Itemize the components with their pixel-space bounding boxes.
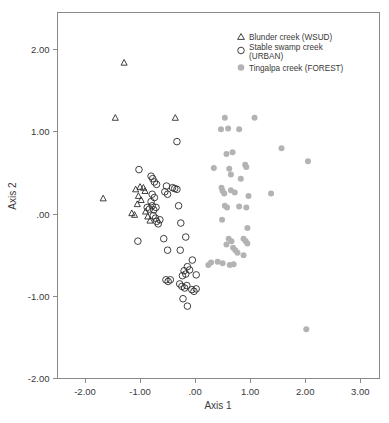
data-point-circle-open (177, 247, 184, 254)
data-point-circle-open (189, 286, 196, 293)
data-point-circle-open (184, 303, 191, 310)
data-point-circle-filled (243, 164, 249, 170)
legend-label-tingalpa: Tingalpa creek (FOREST) (249, 64, 344, 73)
x-tick-label: .00 (188, 386, 201, 397)
data-point-circle-filled (228, 172, 234, 178)
y-axis-tick-labels: 2.001.00.00-1.00-2.00 (28, 44, 50, 384)
y-axis-ticks (53, 50, 58, 379)
data-point-circle-filled (279, 145, 285, 151)
data-point-circle-open (135, 238, 142, 245)
y-tick-label: 1.00 (31, 126, 50, 137)
y-axis-title: Axis 2 (7, 182, 18, 210)
data-point-circle-filled (224, 204, 230, 210)
data-point-circle-filled (241, 252, 247, 258)
data-point-circle-open (167, 277, 174, 284)
data-point-circle-open (175, 202, 182, 209)
y-tick-label: -1.00 (28, 291, 50, 302)
legend-marker-circle-filled-icon (238, 64, 245, 71)
data-point-circle-open (174, 186, 181, 193)
x-tick-label: 2.00 (296, 386, 315, 397)
data-point-circle-open (160, 235, 167, 242)
y-tick-label: -2.00 (28, 373, 50, 384)
data-point-circle-filled (219, 217, 225, 223)
data-point-circle-filled (238, 176, 244, 182)
data-point-circle-filled (223, 151, 229, 157)
legend-marker-circle-open-icon (238, 47, 245, 54)
series-tingalpa-creek-forest (205, 115, 311, 332)
series-blunder-creek-wsud (100, 59, 178, 223)
legend-marker-triangle-icon (238, 34, 245, 40)
data-point-circle-filled (225, 125, 231, 131)
data-point-circle-filled (243, 204, 249, 210)
data-point-circle-filled (228, 238, 234, 244)
y-tick-label: 2.00 (31, 44, 50, 55)
data-point-circle-filled (231, 261, 237, 267)
data-point-circle-filled (223, 241, 229, 247)
data-point-circle-filled (305, 158, 311, 164)
series-stable-swamp-creek-urban (135, 138, 200, 309)
x-tick-label: 1.00 (241, 386, 260, 397)
data-point-circle-filled (236, 126, 242, 132)
data-point-circle-filled (205, 262, 211, 268)
data-point-circle-filled (230, 149, 236, 155)
data-point-circle-filled (244, 241, 250, 247)
x-tick-label: -2.00 (74, 386, 96, 397)
data-point-circle-filled (244, 225, 250, 231)
x-tick-label: -1.00 (129, 386, 151, 397)
data-point-circle-filled (221, 190, 227, 196)
data-point-circle-filled (226, 166, 232, 172)
x-axis-title: Axis 1 (204, 400, 232, 411)
data-point-circle-open (165, 278, 172, 285)
data-point-circle-open (164, 247, 171, 254)
data-point-circle-open (180, 295, 187, 302)
data-point-circle-filled (234, 250, 240, 256)
scatter-plot-figure: -2.00-1.00.001.002.003.00 2.001.00.00-1.… (0, 0, 389, 423)
y-tick-label: .00 (36, 209, 49, 220)
data-point-triangle (134, 201, 140, 207)
data-point-triangle (138, 197, 144, 203)
data-point-triangle (112, 115, 118, 121)
data-point-circle-filled (245, 193, 251, 199)
data-point-circle-filled (303, 326, 309, 332)
data-point-triangle (121, 59, 127, 65)
plot-canvas: -2.00-1.00.001.002.003.00 2.001.00.00-1.… (0, 0, 389, 423)
legend: Blunder creek (WSUD) Stable swamp creek … (238, 33, 344, 73)
data-point-circle-open (193, 272, 200, 279)
legend-label-blunder: Blunder creek (WSUD) (249, 33, 333, 42)
data-point-circle-open (177, 220, 184, 227)
data-point-circle-filled (218, 126, 224, 132)
data-point-circle-filled (268, 190, 274, 196)
data-point-circle-open (182, 234, 189, 241)
data-point-circle-filled (211, 165, 217, 171)
x-tick-label: 3.00 (351, 386, 370, 397)
data-point-circle-open (189, 257, 196, 264)
data-point-circle-open (174, 138, 181, 145)
data-point-circle-filled (252, 115, 258, 121)
x-axis-ticks (85, 379, 360, 384)
data-point-circle-filled (220, 260, 226, 266)
data-point-triangle (172, 115, 178, 121)
legend-label-stable-line1: Stable swamp creek (249, 43, 324, 52)
data-point-circle-open (136, 166, 143, 173)
data-point-circle-filled (232, 190, 238, 196)
data-point-circle-filled (236, 204, 242, 210)
legend-label-stable-line2: (URBAN) (249, 52, 283, 61)
x-axis-tick-labels: -2.00-1.00.001.002.003.00 (74, 386, 369, 397)
data-point-triangle (100, 195, 106, 201)
data-point-circle-filled (222, 115, 228, 121)
data-point-circle-open (148, 198, 155, 205)
